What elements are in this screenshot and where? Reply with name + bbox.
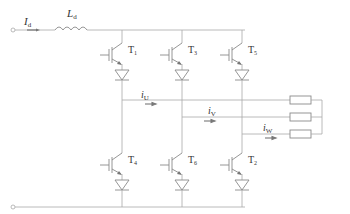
load-resistor-v xyxy=(290,113,311,121)
switch-label-t3: T3 xyxy=(188,44,197,56)
diode-icon xyxy=(235,70,249,80)
emitter-arrow-icon xyxy=(117,171,122,175)
diode-icon xyxy=(115,180,129,190)
label-id: Id xyxy=(23,15,32,29)
inductor-icon xyxy=(55,27,87,30)
inverter-circuit-diagram: T1T4T3T6T5T2 Id Ld iU iV iW xyxy=(0,0,350,214)
emitter-arrow-icon xyxy=(177,61,182,65)
input-terminal-top xyxy=(11,28,15,32)
switch-label-t4: T4 xyxy=(128,154,137,166)
dc-positive-rail xyxy=(11,27,245,32)
input-terminal-bottom xyxy=(11,205,15,209)
label-iw: iW xyxy=(263,122,273,135)
label-iv: iV xyxy=(208,105,216,118)
phase-outputs xyxy=(122,96,322,139)
diode-icon xyxy=(115,70,129,80)
switch-label-t2: T2 xyxy=(248,154,257,166)
diode-icon xyxy=(175,180,189,190)
switch-label-t1: T1 xyxy=(128,44,137,56)
phase-leg: T3T6 xyxy=(160,30,197,207)
phase-leg: T5T2 xyxy=(220,30,257,207)
switch-label-t5: T5 xyxy=(248,44,257,56)
dc-negative-rail xyxy=(11,205,245,209)
diode-icon xyxy=(235,180,249,190)
phase-leg: T1T4 xyxy=(100,30,137,207)
emitter-arrow-icon xyxy=(117,61,122,65)
switch-label-t6: T6 xyxy=(188,154,197,166)
load-resistor-u xyxy=(290,96,311,104)
label-ld: Ld xyxy=(66,7,77,21)
emitter-arrow-icon xyxy=(177,171,182,175)
load-resistor-w xyxy=(290,130,311,138)
emitter-arrow-icon xyxy=(237,171,242,175)
emitter-arrow-icon xyxy=(237,61,242,65)
diode-icon xyxy=(175,70,189,80)
current-arrow-icon xyxy=(36,29,40,32)
